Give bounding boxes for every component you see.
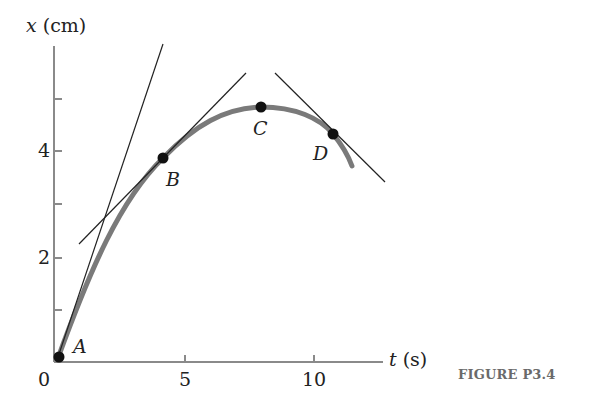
point-label-c: C xyxy=(253,119,268,138)
position-curve xyxy=(58,107,352,358)
x-tick-label-0: 0 xyxy=(38,370,50,389)
tangent-line-a xyxy=(57,44,163,360)
y-axis-label: x (cm) xyxy=(26,16,86,35)
x-ticks xyxy=(185,355,314,362)
point-a xyxy=(54,352,65,363)
y-axis-unit: (cm) xyxy=(43,14,86,36)
point-label-b: B xyxy=(166,170,180,189)
y-tick-label-4: 4 xyxy=(38,141,50,160)
y-axis-var: x xyxy=(26,14,37,36)
y-tick-label-2: 2 xyxy=(38,248,50,267)
chart-canvas xyxy=(0,0,603,406)
x-axis-label: t (s) xyxy=(389,350,427,369)
point-c xyxy=(256,102,267,113)
tangent-line-d xyxy=(275,73,385,182)
point-label-d: D xyxy=(313,144,328,163)
point-b xyxy=(158,153,169,164)
x-axis-unit: (s) xyxy=(403,348,428,370)
x-axis-var: t xyxy=(389,348,397,370)
x-tick-label-10: 10 xyxy=(302,370,326,389)
y-ticks xyxy=(54,99,62,310)
x-tick-label-5: 5 xyxy=(179,370,191,389)
figure-caption: FIGURE P3.4 xyxy=(458,367,556,382)
point-label-a: A xyxy=(73,337,87,356)
point-d xyxy=(328,129,339,140)
